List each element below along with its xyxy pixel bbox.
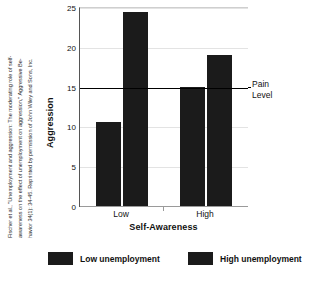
bar-high-low — [180, 87, 205, 206]
legend-label-high-unemployment: High unemployment — [220, 254, 302, 264]
bar-chart: Aggression 0510152025 Pain Level Self-Aw… — [0, 0, 317, 281]
pain-level-line-extension — [248, 87, 251, 88]
pain-level-label: Pain Level — [252, 79, 272, 100]
y-axis-tick-label: 25 — [67, 4, 76, 13]
x-axis-tick-label: High — [180, 209, 230, 219]
pain-level-label-line-2: Level — [252, 90, 272, 101]
y-axis-title-text: Aggression — [45, 97, 55, 148]
bar-high-high — [207, 55, 232, 206]
bar-low-low — [96, 122, 121, 206]
legend-item-high-unemployment: High unemployment — [188, 252, 302, 265]
y-axis-tick-label: 10 — [67, 123, 76, 132]
pain-level-label-line-1: Pain — [252, 79, 272, 90]
y-axis-tick-label: 0 — [72, 203, 76, 212]
y-axis-tick-label: 15 — [67, 83, 76, 92]
legend-swatch-low-unemployment — [48, 252, 73, 265]
x-axis-line — [80, 206, 248, 207]
pain-level-line — [80, 88, 248, 89]
x-axis-tick-mark — [163, 207, 164, 211]
gridline — [80, 48, 248, 49]
plot-area: 0510152025 — [79, 7, 248, 207]
gridline — [80, 8, 248, 9]
legend-label-low-unemployment: Low unemployment — [80, 254, 160, 264]
y-axis-tick-label: 5 — [72, 163, 76, 172]
bar-low-high — [123, 12, 148, 206]
legend-swatch-high-unemployment — [188, 252, 213, 265]
chart-legend: Low unemployment High unemployment — [48, 252, 308, 272]
legend-item-low-unemployment: Low unemployment — [48, 252, 160, 265]
y-axis-tick-label: 20 — [67, 43, 76, 52]
x-axis-tick-label: Low — [96, 209, 146, 219]
y-axis-title: Aggression — [44, 70, 56, 150]
x-axis-title: Self-Awareness — [79, 222, 248, 232]
